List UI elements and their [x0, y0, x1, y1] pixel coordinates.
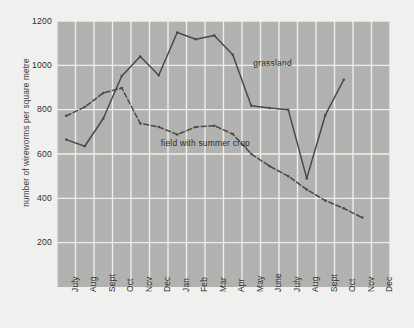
- x-axis-tick-label: Dec: [162, 277, 172, 293]
- data-point-marker: [65, 138, 68, 141]
- data-point-marker: [139, 122, 142, 125]
- chart-root: number of wireworms per square metre 200…: [0, 0, 414, 328]
- data-point-marker: [269, 107, 272, 110]
- x-axis-tick-label: Nov: [144, 277, 154, 293]
- data-point-marker: [195, 126, 198, 128]
- x-axis-tick-label: Oct: [347, 278, 357, 292]
- x-axis-tick-label: July: [292, 276, 302, 292]
- data-point-marker: [84, 145, 87, 148]
- x-axis-tick-label: Jan: [181, 278, 191, 292]
- x-axis-tick-label: Sept: [107, 274, 117, 292]
- x-axis-tick-label: Dec: [384, 277, 394, 293]
- series-annotation-label: field with summer crop: [161, 138, 250, 148]
- data-point-marker: [269, 165, 272, 168]
- data-point-marker: [287, 175, 290, 178]
- data-point-marker: [250, 153, 253, 156]
- data-point-marker: [250, 104, 253, 107]
- data-point-marker: [102, 92, 105, 95]
- x-axis-tick-label: May: [255, 276, 265, 292]
- data-point-marker: [232, 133, 235, 136]
- x-axis-tick-label: Oct: [125, 278, 135, 292]
- x-axis-tick-label: July: [70, 276, 80, 292]
- data-point-marker: [195, 38, 198, 41]
- data-point-marker: [287, 108, 290, 111]
- data-point-marker: [306, 177, 309, 180]
- data-point-marker: [324, 199, 327, 202]
- data-point-marker: [84, 106, 87, 109]
- data-point-marker: [158, 126, 161, 128]
- data-point-marker: [306, 188, 309, 191]
- data-point-marker: [213, 124, 216, 127]
- data-point-marker: [343, 78, 346, 81]
- x-axis-tick-label: Feb: [199, 277, 209, 292]
- data-point-marker: [343, 207, 346, 210]
- data-point-marker: [65, 115, 68, 118]
- x-axis-tick-label: Nov: [366, 277, 376, 293]
- x-axis-tick-label: Aug: [88, 276, 98, 292]
- data-point-marker: [232, 53, 235, 56]
- data-point-marker: [176, 31, 179, 34]
- x-axis-tick-label: Sept: [329, 274, 339, 292]
- x-axis-tick-label: Mar: [218, 277, 228, 292]
- data-point-marker: [121, 75, 124, 78]
- x-axis-tick-label: Aug: [310, 276, 320, 292]
- series-annotation-label: grassland: [253, 58, 292, 68]
- data-point-marker: [139, 55, 142, 58]
- x-axis-tick-label: June: [273, 273, 283, 292]
- data-point-marker: [361, 216, 364, 219]
- data-point-marker: [121, 87, 124, 90]
- data-point-marker: [158, 74, 161, 77]
- data-point-marker: [324, 114, 327, 117]
- data-point-marker: [102, 117, 105, 120]
- x-axis-tick-label: Apr: [236, 278, 246, 292]
- data-point-marker: [176, 133, 179, 136]
- data-point-marker: [213, 34, 216, 37]
